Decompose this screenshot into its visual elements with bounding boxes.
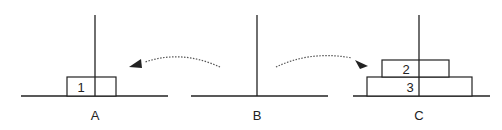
peg-a-label: A — [91, 108, 100, 123]
peg-b: B — [191, 15, 328, 123]
peg-b-label: B — [253, 108, 262, 123]
arrow-b-to-c-path — [276, 56, 352, 67]
arrow-b-to-c — [276, 56, 368, 69]
peg-a: 1 A — [21, 15, 168, 123]
disk-1-label: 1 — [77, 80, 84, 95]
arrowhead-right-icon — [355, 60, 368, 69]
arrow-b-to-a-path — [145, 57, 220, 67]
peg-c: 2 3 C — [353, 15, 490, 123]
disk-3-label: 3 — [406, 80, 413, 95]
disk-1 — [67, 77, 116, 96]
tower-of-hanoi-diagram: 1 A B 2 3 C — [0, 0, 502, 130]
arrow-b-to-a — [129, 57, 220, 68]
disk-2-label: 2 — [402, 62, 409, 77]
peg-c-label: C — [414, 108, 423, 123]
disk-2 — [382, 60, 449, 77]
arrowhead-left-icon — [129, 59, 142, 68]
